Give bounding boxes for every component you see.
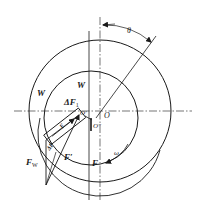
center-o-label: O [104,111,110,120]
f-prime-label: F′ [63,152,73,162]
tangent-line [46,152,56,185]
f-label: F [91,158,98,168]
delta-f1-label: ΔF1 [63,97,79,108]
w-inner-label: W [77,80,86,90]
theta-label: θ [127,26,131,35]
f2-label: F [58,123,65,130]
center-o-prime2-label: O″ [93,122,101,130]
fw-label: FW [25,157,38,168]
omega-label: ω [114,149,119,157]
w-outer-label: W [37,88,46,98]
bearing-diagram: θ W W ΔF1 O O′ O″ FW F′ F ω F ΔF [0,0,198,210]
theta-line [96,36,156,118]
center-o-prime-label: O′ [80,109,87,117]
